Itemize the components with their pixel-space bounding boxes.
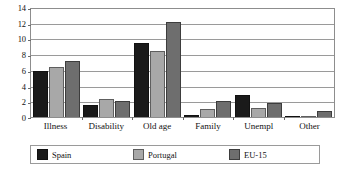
bar-chart: 02468101214 IllnessDisabilityOld ageFami… [0, 0, 350, 175]
legend-color-swatch [133, 149, 144, 160]
bar [317, 111, 332, 117]
bar [65, 61, 80, 117]
y-axis-tick-label: 6 [0, 67, 26, 76]
y-axis-tick-label: 10 [0, 35, 26, 44]
bar [251, 108, 266, 117]
y-axis-tick [28, 118, 31, 119]
y-axis-tick-label: 0 [0, 114, 26, 123]
bar [134, 43, 149, 117]
bar [33, 71, 48, 117]
legend-label: EU-15 [244, 150, 267, 160]
y-axis-tick-labels: 02468101214 [0, 8, 26, 118]
bar-group [82, 9, 133, 117]
bar [301, 116, 316, 117]
bar [200, 109, 215, 117]
bar [267, 103, 282, 117]
bar [216, 101, 231, 118]
chart-legend: SpainPortugalEU-15 [30, 145, 320, 164]
legend-color-swatch [229, 149, 240, 160]
legend-color-swatch [37, 149, 48, 160]
x-axis-category-label: Illness [30, 120, 81, 134]
plot-area: 02468101214 IllnessDisabilityOld ageFami… [0, 0, 350, 132]
bar [150, 51, 165, 117]
bar-group [31, 9, 82, 117]
bar [115, 101, 130, 118]
x-axis-category-label: Unempl [233, 120, 284, 134]
y-axis-tick-label: 2 [0, 98, 26, 107]
bar-group [233, 9, 284, 117]
bar [166, 22, 181, 117]
x-axis-category-labels: IllnessDisabilityOld ageFamilyUnemplOthe… [30, 120, 335, 134]
y-axis-tick-label: 12 [0, 19, 26, 28]
legend-item: Spain [31, 149, 127, 160]
bar-group [132, 9, 183, 117]
plot-frame [30, 8, 335, 118]
x-axis-category-label: Old age [132, 120, 183, 134]
legend-label: Spain [52, 150, 71, 160]
x-axis-category-label: Family [182, 120, 233, 134]
bar [285, 116, 300, 117]
y-axis-tick-label: 4 [0, 82, 26, 91]
y-axis-tick-label: 14 [0, 4, 26, 13]
bar-group [183, 9, 234, 117]
legend-item: Portugal [127, 149, 223, 160]
bar [83, 105, 98, 117]
legend-item: EU-15 [223, 149, 319, 160]
x-axis-category-label: Disability [81, 120, 132, 134]
legend-label: Portugal [148, 150, 177, 160]
bar [184, 115, 199, 117]
bar-group [284, 9, 335, 117]
y-axis-tick-label: 8 [0, 51, 26, 60]
bar [235, 95, 250, 117]
bar [99, 99, 114, 117]
bar [49, 67, 64, 117]
x-axis-category-label: Other [284, 120, 335, 134]
bar-groups [31, 9, 334, 117]
